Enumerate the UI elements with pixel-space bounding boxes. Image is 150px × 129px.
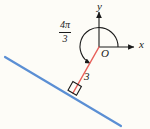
angle-denominator: 3: [63, 33, 68, 45]
segment-length-label: 3: [84, 71, 90, 82]
math-figure: y x O 3 4π 3: [0, 0, 150, 129]
angle-label: 4π 3: [59, 20, 71, 44]
figure-canvas: [0, 0, 150, 129]
x-axis-label: x: [139, 39, 144, 50]
angle-numerator: 4π: [59, 20, 71, 33]
origin-label: O: [101, 48, 109, 59]
tangent-line: [5, 57, 121, 126]
right-angle-marker: [68, 82, 81, 96]
y-axis-label: y: [97, 1, 102, 12]
